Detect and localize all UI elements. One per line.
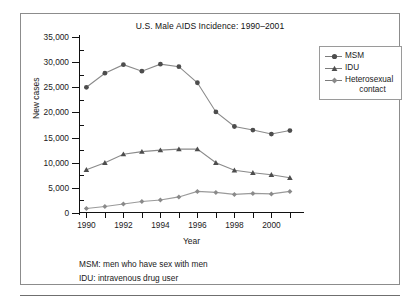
series-heterosexual-contact (84, 189, 293, 211)
legend-label-heterosexual-line1: Heterosexual (345, 75, 393, 84)
circle-marker-icon (325, 51, 342, 61)
footnote-msm: MSM: men who have sex with men (79, 259, 208, 269)
x-tick-label: 2000 (262, 220, 280, 230)
footnote-idu: IDU: intravenous drug user (79, 273, 178, 283)
data-point-diamond-marker (232, 192, 237, 197)
data-point-diamond-marker (84, 206, 89, 211)
x-tick (197, 213, 198, 218)
triangle-marker-icon (325, 63, 342, 73)
data-point-circle-marker (232, 124, 237, 129)
x-tick-label: 1998 (225, 220, 243, 230)
y-axis-title: New cases (31, 77, 41, 119)
series-line (86, 191, 290, 208)
y-tick-label: 5,000 (48, 183, 69, 193)
x-tick-label: 1990 (77, 220, 95, 230)
data-point-circle-marker (103, 71, 108, 76)
y-tick-label: 30,000 (44, 57, 69, 67)
legend-label-msm: MSM (345, 51, 397, 61)
x-tick (253, 213, 254, 218)
series-idu (84, 146, 293, 180)
x-tick (216, 213, 217, 218)
plot-area: 05,00010,00015,00020,00025,00030,00035,0… (79, 37, 301, 213)
diamond-marker-icon (325, 75, 342, 85)
data-point-circle-marker (251, 128, 256, 133)
data-point-circle-marker (195, 80, 200, 85)
x-tick (271, 213, 272, 218)
data-point-diamond-marker (269, 191, 274, 196)
data-point-circle-marker (269, 132, 274, 137)
series-line (86, 149, 290, 178)
y-tick (72, 112, 79, 113)
figure-root: U.S. Male AIDS Incidence: 1990–2001 New … (0, 0, 415, 302)
legend-label-heterosexual: Heterosexual contact (345, 75, 397, 94)
series-msm (84, 62, 292, 137)
x-tick (160, 213, 161, 218)
data-series-layer (79, 37, 301, 213)
data-point-diamond-marker (139, 199, 144, 204)
data-point-circle-marker (177, 64, 182, 69)
x-tick (123, 213, 124, 218)
y-tick (72, 213, 79, 214)
y-tick (72, 188, 79, 189)
x-tick-label: 1996 (188, 220, 206, 230)
bottom-divider (20, 295, 400, 296)
data-point-diamond-marker (176, 194, 181, 199)
x-tick-label: 1992 (114, 220, 132, 230)
y-tick-label: 0 (64, 208, 69, 218)
legend-item-msm: MSM (325, 51, 397, 61)
x-axis-title: Year (79, 236, 304, 246)
data-point-circle-marker (84, 85, 89, 90)
y-tick-label: 35,000 (44, 32, 69, 42)
data-point-diamond-marker (121, 201, 126, 206)
legend-item-heterosexual: Heterosexual contact (325, 75, 397, 94)
x-tick-label: 1994 (151, 220, 169, 230)
data-point-diamond-marker (195, 189, 200, 194)
y-tick-label: 25,000 (44, 82, 69, 92)
data-point-diamond-marker (102, 204, 107, 209)
data-point-diamond-marker (158, 197, 163, 202)
y-tick (72, 87, 79, 88)
x-tick (234, 213, 235, 218)
y-tick-label: 10,000 (44, 158, 69, 168)
data-point-circle-marker (121, 62, 126, 67)
data-point-circle-marker (158, 62, 163, 67)
data-point-diamond-marker (213, 190, 218, 195)
x-tick (179, 213, 180, 218)
legend-label-heterosexual-line2: contact (345, 85, 397, 95)
y-tick (72, 37, 79, 38)
data-point-diamond-marker (250, 191, 255, 196)
y-tick (72, 62, 79, 63)
data-point-circle-marker (288, 128, 293, 133)
data-point-circle-marker (140, 69, 145, 74)
x-tick (105, 213, 106, 218)
x-tick (86, 213, 87, 218)
figure-frame: U.S. Male AIDS Incidence: 1990–2001 New … (20, 13, 400, 285)
y-tick (72, 138, 79, 139)
x-tick (290, 213, 291, 218)
chart-title: U.S. Male AIDS Incidence: 1990–2001 (21, 21, 399, 31)
series-line (86, 64, 290, 134)
legend-label-idu: IDU (345, 63, 397, 73)
y-tick (72, 163, 79, 164)
data-point-triangle-marker (102, 160, 108, 165)
x-tick (142, 213, 143, 218)
data-point-diamond-marker (287, 189, 292, 194)
y-tick-label: 20,000 (44, 107, 69, 117)
y-tick-label: 15,000 (44, 133, 69, 143)
legend: MSM IDU Heterosex (319, 46, 402, 100)
data-point-circle-marker (214, 110, 219, 115)
legend-item-idu: IDU (325, 63, 397, 73)
